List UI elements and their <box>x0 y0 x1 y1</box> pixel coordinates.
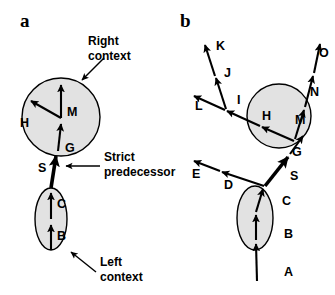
panel-b-edge-a <box>256 244 257 281</box>
panel-a-label: a <box>20 10 30 31</box>
left-context-annotation-line1: Left <box>100 255 122 269</box>
panel-b-label-o: O <box>319 46 329 60</box>
panel-a-label-g: G <box>65 141 75 155</box>
panel-b-label-i: I <box>237 93 240 107</box>
strict-predecessor-annotation-line1: Strict <box>104 150 135 164</box>
panel-b-label-n: N <box>310 85 319 99</box>
left-context-leader <box>71 252 96 272</box>
panel-b-label-l: L <box>195 99 203 113</box>
right-context-annotation-line1: Right <box>88 34 119 48</box>
panel-b-label-b: B <box>284 227 293 241</box>
panel-b-label-g: G <box>292 145 302 159</box>
panel-a-label-c: C <box>57 197 66 211</box>
panel-b-label-m: M <box>295 113 305 127</box>
panel-b-label-j: J <box>224 66 231 80</box>
panel-a-edge-s <box>51 156 56 188</box>
panel-b: b A B C <box>180 10 329 281</box>
panel-b-label-h: H <box>262 109 271 123</box>
panel-b-label-k: K <box>216 39 225 53</box>
panel-a: a M H G S C B Right context Strict prede… <box>20 10 176 284</box>
panel-b-edge-s <box>265 157 288 186</box>
panel-a-label-s: S <box>38 161 46 175</box>
panel-a-label-h: H <box>20 116 29 130</box>
figure-canvas: a M H G S C B Right context Strict prede… <box>0 0 335 295</box>
panel-b-label-s: S <box>290 169 298 183</box>
panel-b-edge-k <box>205 45 215 76</box>
panel-a-label-m: M <box>67 105 77 119</box>
panel-b-label-e: E <box>192 167 200 181</box>
right-context-annotation-line2: context <box>88 49 131 63</box>
panel-b-label-a: A <box>284 265 293 279</box>
panel-b-label: b <box>180 10 191 31</box>
panel-b-label-c: C <box>282 194 291 208</box>
panel-a-label-b: B <box>57 229 66 243</box>
left-context-annotation-line2: context <box>100 270 143 284</box>
strict-predecessor-annotation-line2: predecessor <box>104 165 176 179</box>
panel-b-edge-j <box>216 78 226 109</box>
panel-b-label-d: D <box>224 178 233 192</box>
